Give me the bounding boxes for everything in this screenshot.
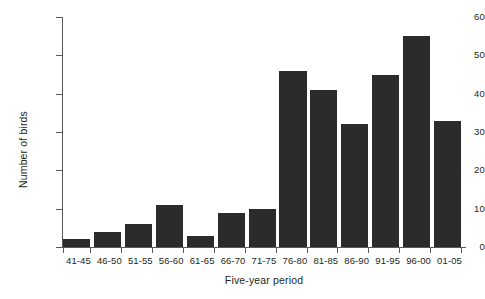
x-axis-title: Five-year period — [63, 274, 465, 286]
x-axis-line — [62, 247, 466, 248]
bar — [125, 224, 152, 247]
x-axis-tick-mark — [399, 248, 400, 253]
bar-chart: Number of birds 0102030405060 41-4546-50… — [0, 0, 485, 299]
x-axis-tick-mark — [63, 248, 64, 253]
x-axis-tick-mark — [307, 248, 308, 253]
bar — [279, 71, 306, 247]
bar — [156, 205, 183, 247]
x-axis-tick-mark — [183, 248, 184, 253]
bar — [403, 36, 430, 247]
y-axis-tick-mark — [56, 17, 62, 18]
bar — [434, 121, 461, 248]
bar — [63, 239, 90, 247]
bar — [372, 75, 399, 248]
plot-area — [63, 17, 465, 247]
y-axis-tick-mark — [56, 170, 62, 171]
x-axis-tick-mark — [121, 248, 122, 253]
y-axis-tick-mark — [56, 55, 62, 56]
y-axis-tick-mark — [56, 132, 62, 133]
bar — [218, 213, 245, 248]
x-axis-tick-mark — [337, 248, 338, 253]
bar — [187, 236, 214, 248]
y-axis-tick-mark — [56, 209, 62, 210]
x-axis-tick-mark — [368, 248, 369, 253]
y-axis-title: Number of birds — [12, 0, 34, 299]
x-axis-tick-mark — [152, 248, 153, 253]
x-axis-tick-mark — [245, 248, 246, 253]
x-axis-tick-mark — [430, 248, 431, 253]
bar — [310, 90, 337, 247]
x-axis-tick-label: 01-05 — [431, 256, 468, 266]
x-axis-tick-mark — [461, 248, 462, 253]
x-axis-tick-mark — [90, 248, 91, 253]
y-axis-tick-mark — [56, 247, 62, 248]
x-axis-tick-mark — [214, 248, 215, 253]
bar — [249, 209, 276, 247]
bar — [94, 232, 121, 247]
x-axis-tick-mark — [276, 248, 277, 253]
y-axis-tick-mark — [56, 94, 62, 95]
bar — [341, 124, 368, 247]
